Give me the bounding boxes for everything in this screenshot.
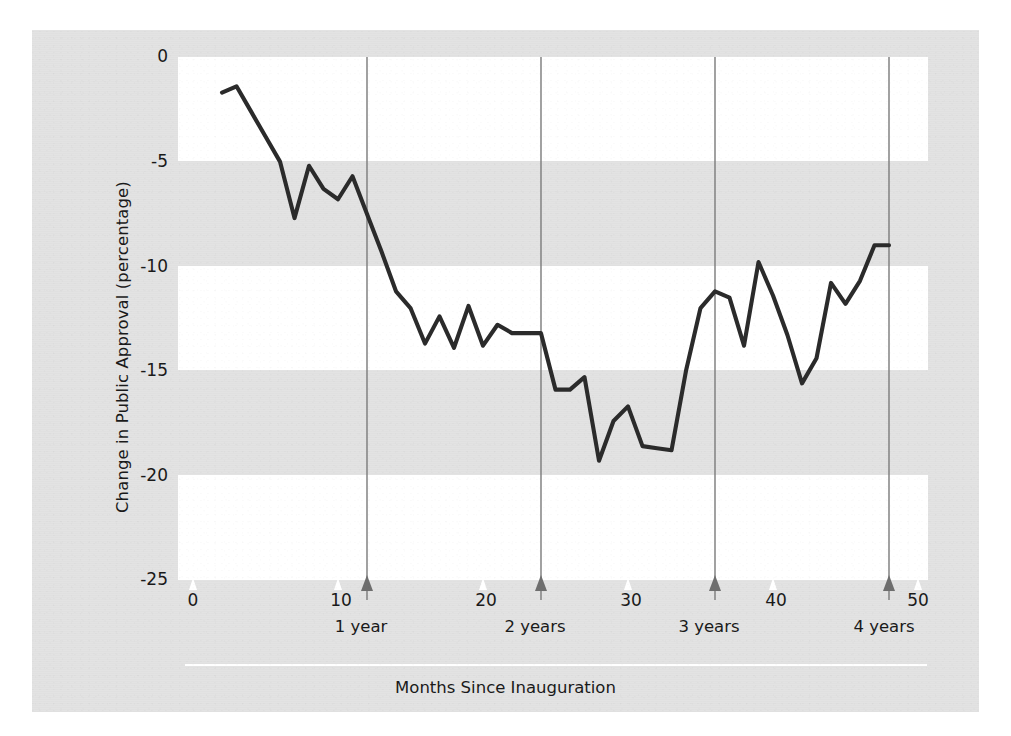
approval-data-line [222,86,889,460]
x-tick-mark-20 [479,578,487,590]
x-tick-mark-0 [189,578,197,590]
x-tick-mark-10 [334,578,342,590]
x-axis-ticks [189,578,922,590]
year-arrow-icon-3 [709,575,721,591]
year-arrow-icon-4 [883,575,895,591]
x-tick-mark-50 [914,578,922,590]
chart-overlay [0,0,1011,736]
year-arrow-icon-2 [535,575,547,591]
figure-root: Change in Public Approval (percentage) 0… [0,0,1011,736]
x-tick-mark-40 [769,578,777,590]
x-tick-mark-30 [624,578,632,590]
year-arrow-icon-1 [361,575,373,591]
